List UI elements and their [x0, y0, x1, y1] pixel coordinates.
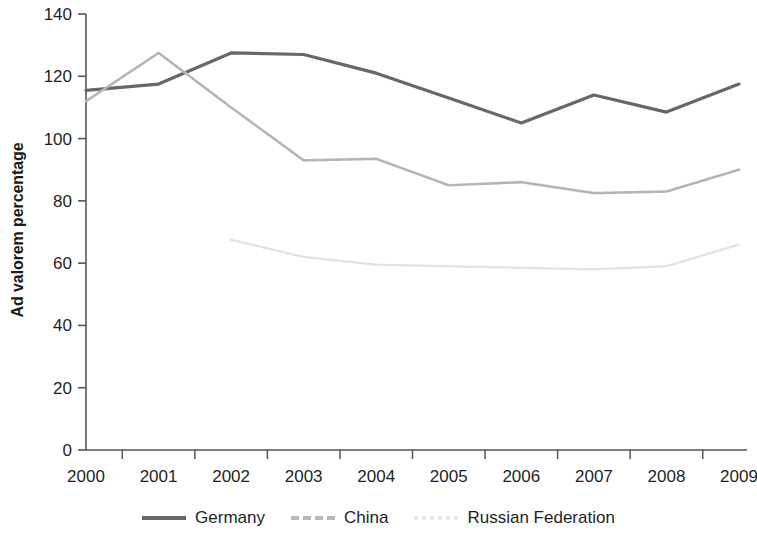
- legend-item-russian-federation[interactable]: Russian Federation: [414, 508, 614, 528]
- data-series: [86, 53, 739, 269]
- y-tick-label: 40: [53, 316, 72, 335]
- x-tick-label: 2004: [357, 467, 395, 486]
- y-tick-label: 60: [53, 254, 72, 273]
- y-tick-label: 20: [53, 379, 72, 398]
- x-tick-label: 2005: [430, 467, 468, 486]
- plot-area: 020406080100120140 200020012002200320042…: [0, 0, 757, 500]
- legend-label: China: [344, 508, 388, 528]
- series-line-russian-federation: [231, 240, 739, 270]
- x-tick-label: 2009: [720, 467, 757, 486]
- x-tick-labels: 2000200120022003200420052006200720082009: [67, 467, 757, 486]
- legend-label: Germany: [195, 508, 265, 528]
- y-tick-label: 100: [44, 130, 72, 149]
- y-tick-label: 120: [44, 67, 72, 86]
- x-tick-label: 2006: [502, 467, 540, 486]
- x-tick-label: 2007: [575, 467, 613, 486]
- legend-label: Russian Federation: [467, 508, 614, 528]
- y-tick-labels: 020406080100120140: [44, 5, 72, 460]
- x-tick-label: 2002: [212, 467, 250, 486]
- x-tick-label: 2000: [67, 467, 105, 486]
- x-tick-label: 2003: [285, 467, 323, 486]
- legend-swatch-icon: [142, 516, 186, 520]
- legend-swatch-icon: [414, 516, 458, 520]
- legend-swatch-icon: [291, 516, 335, 520]
- series-line-germany: [86, 53, 739, 123]
- y-tick-label: 80: [53, 192, 72, 211]
- chart-legend: GermanyChinaRussian Federation: [0, 498, 757, 537]
- y-tick-label: 0: [63, 441, 72, 460]
- line-chart: Ad valorem percentage 020406080100120140…: [0, 0, 757, 537]
- y-tick-label: 140: [44, 5, 72, 24]
- axes: [78, 14, 747, 459]
- legend-item-china[interactable]: China: [291, 508, 388, 528]
- legend-item-germany[interactable]: Germany: [142, 508, 265, 528]
- x-tick-label: 2001: [140, 467, 178, 486]
- x-tick-label: 2008: [648, 467, 686, 486]
